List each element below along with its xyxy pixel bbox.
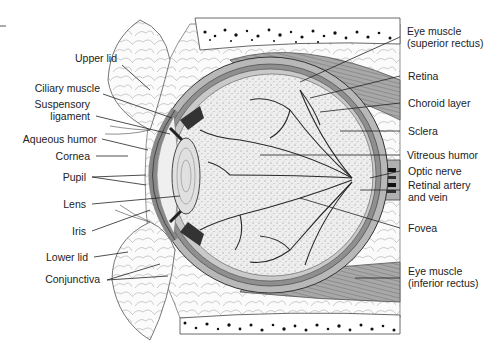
- label-retinal-line2: and vein: [408, 191, 470, 203]
- label-retinal-line1: Retinal artery: [408, 179, 470, 191]
- label-lens: Lens: [63, 198, 86, 210]
- lens-shape: [172, 138, 200, 214]
- label-ciliary-muscle: Ciliary muscle: [35, 82, 100, 94]
- eye-diagram: Upper lid Ciliary muscle Suspensory liga…: [0, 0, 502, 344]
- label-aqueous-humor: Aqueous humor: [23, 133, 97, 145]
- label-optic-nerve: Optic nerve: [408, 165, 462, 177]
- label-superior-line1: Eye muscle: [407, 25, 483, 37]
- label-suspensory-line2: ligament: [35, 110, 90, 122]
- label-sclera: Sclera: [408, 125, 438, 137]
- label-eye-muscle-superior: Eye muscle (superior rectus): [407, 25, 483, 49]
- label-lower-lid: Lower lid: [46, 251, 88, 263]
- lower-lashes: [115, 205, 150, 222]
- label-fovea: Fovea: [408, 222, 437, 234]
- label-pupil: Pupil: [63, 171, 86, 183]
- label-suspensory-line1: Suspensory: [35, 98, 90, 110]
- label-superior-line2: (superior rectus): [407, 37, 483, 49]
- label-suspensory-ligament: Suspensory ligament: [35, 98, 90, 122]
- orbital-bone-bottom: [180, 313, 400, 334]
- label-inferior-line1: Eye muscle: [408, 265, 479, 277]
- label-inferior-line2: (inferior rectus): [408, 277, 479, 289]
- lower-lid-shape: [112, 222, 175, 340]
- label-cornea: Cornea: [56, 150, 90, 162]
- label-conjunctiva: Conjunctiva: [45, 273, 100, 285]
- label-iris: Iris: [72, 225, 86, 237]
- label-retinal-artery-vein: Retinal artery and vein: [408, 179, 470, 203]
- label-retina: Retina: [408, 70, 438, 82]
- label-choroid-layer: Choroid layer: [408, 97, 470, 109]
- label-vitreous-humor: Vitreous humor: [407, 149, 478, 161]
- label-eye-muscle-inferior: Eye muscle (inferior rectus): [408, 265, 479, 289]
- label-upper-lid: Upper lid: [75, 52, 117, 64]
